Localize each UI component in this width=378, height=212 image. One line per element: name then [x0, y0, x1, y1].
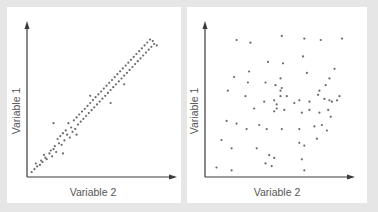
data-point	[96, 103, 98, 105]
data-point	[318, 90, 320, 92]
data-point	[31, 171, 33, 173]
data-point	[327, 109, 329, 111]
data-point	[95, 96, 97, 98]
data-point	[320, 39, 322, 41]
data-point	[318, 112, 320, 114]
data-point	[77, 124, 79, 126]
data-point	[273, 157, 275, 159]
right-x-axis-arrow-icon	[347, 175, 355, 180]
data-point	[52, 148, 54, 150]
data-point	[293, 102, 295, 104]
right-scatter-panel: Variable 2 Variable 1	[187, 7, 367, 203]
data-point	[63, 139, 65, 141]
data-point	[142, 54, 144, 56]
data-point	[301, 158, 303, 160]
data-point	[110, 102, 112, 104]
data-point	[57, 138, 59, 140]
data-point	[148, 49, 150, 51]
data-point	[134, 63, 136, 65]
data-point	[279, 95, 281, 97]
data-point	[236, 39, 238, 41]
right-points	[215, 35, 343, 172]
data-point	[51, 155, 53, 157]
data-point	[107, 92, 109, 94]
data-point	[246, 128, 248, 130]
data-point	[59, 135, 61, 137]
data-point	[338, 95, 340, 97]
data-point	[135, 53, 137, 55]
data-point	[82, 118, 84, 120]
data-point	[266, 128, 268, 130]
data-point	[46, 158, 48, 160]
data-point	[253, 107, 255, 109]
data-point	[85, 115, 87, 117]
data-point	[61, 144, 63, 146]
data-point	[308, 101, 310, 103]
data-point	[333, 68, 335, 70]
data-point	[69, 137, 71, 139]
data-point	[263, 101, 265, 103]
data-point	[279, 90, 281, 92]
data-point	[279, 77, 281, 79]
data-point	[76, 116, 78, 118]
data-point	[301, 112, 303, 114]
data-point	[264, 162, 266, 164]
data-point	[114, 76, 116, 78]
data-point	[236, 123, 238, 125]
data-point	[130, 59, 132, 61]
data-point	[316, 138, 318, 140]
data-point	[150, 46, 152, 48]
data-point	[33, 168, 35, 170]
data-point	[100, 90, 102, 92]
data-point	[156, 44, 158, 46]
data-point	[273, 110, 275, 112]
data-point	[88, 112, 90, 114]
data-point	[231, 169, 233, 171]
data-point	[123, 75, 125, 77]
data-point	[99, 101, 101, 103]
data-point	[328, 99, 330, 101]
data-point	[76, 134, 78, 136]
data-point	[89, 95, 91, 97]
data-point	[264, 81, 266, 83]
data-point	[146, 41, 148, 43]
data-point	[139, 57, 141, 59]
data-point	[101, 98, 103, 100]
data-point	[116, 73, 118, 75]
right-x-axis-label: Variable 2	[254, 186, 301, 198]
data-point	[303, 145, 305, 147]
data-point	[105, 85, 107, 87]
data-point	[66, 134, 68, 136]
data-point	[91, 109, 93, 111]
data-point	[281, 87, 283, 89]
data-point	[302, 55, 304, 57]
data-point	[122, 67, 124, 69]
data-point	[67, 122, 69, 124]
data-point	[78, 113, 80, 115]
data-point	[149, 39, 151, 41]
data-point	[145, 52, 147, 54]
data-point	[283, 109, 285, 111]
data-point	[126, 72, 128, 74]
data-point	[267, 61, 269, 63]
data-point	[274, 84, 276, 86]
data-point	[80, 121, 82, 123]
data-point	[123, 83, 125, 85]
data-point	[152, 40, 154, 42]
data-point	[215, 166, 217, 168]
left-y-axis-arrow-icon	[25, 21, 30, 29]
data-point	[273, 99, 275, 101]
data-point	[55, 151, 57, 153]
data-point	[111, 79, 113, 81]
data-point	[281, 128, 283, 130]
data-point	[271, 165, 273, 167]
data-point	[226, 120, 228, 122]
data-point	[256, 147, 258, 149]
data-point	[70, 126, 72, 128]
left-scatter-panel: Variable 2 Variable 1	[7, 7, 181, 203]
data-point	[321, 124, 323, 126]
right-y-axis-label: Variable 1	[188, 88, 200, 135]
data-point	[73, 119, 75, 121]
data-point	[303, 38, 305, 40]
data-point	[71, 131, 73, 133]
